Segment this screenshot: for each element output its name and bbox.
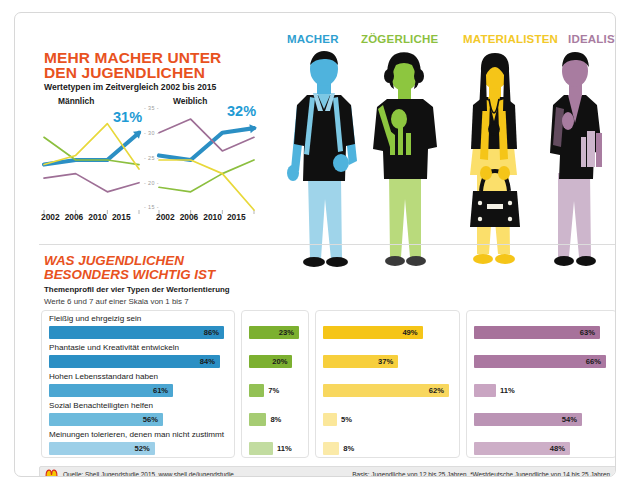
section1-title-line1: MEHR MACHER UNTER (44, 50, 279, 65)
section2-note: Werte 6 und 7 auf einer Skala von 1 bis … (44, 297, 189, 306)
bar-row: 7% (242, 371, 308, 400)
bar-row: 63% (467, 313, 616, 342)
footer-bar: Quelle: Shell Jugendstudie 2015, www.she… (39, 466, 616, 477)
section-divider (39, 244, 616, 245)
bar-row: 62% (316, 371, 459, 400)
bar-row: 5% (316, 400, 459, 429)
criterion-label: Phantasie und Kreativität entwickeln (49, 343, 179, 352)
xtick-2010: 2010 (203, 212, 222, 222)
bar-group-idealisten: 63%66%11%54%48% (466, 310, 616, 458)
arrow-head (249, 124, 257, 133)
bar-value: 11% (277, 443, 292, 454)
section2-title-line1: WAS JUGENDLICHEN (44, 254, 294, 268)
bar-row: 54% (467, 400, 616, 429)
female-chart-xaxis: 2002200620102015 (156, 212, 246, 222)
bar: 86% (49, 326, 224, 339)
line-zögerliche (159, 160, 254, 192)
section2-title-line2: BESONDERS WICHTIG IST (44, 268, 294, 282)
bar-row: 23% (242, 313, 308, 342)
line-charts (39, 106, 279, 226)
bar-row: 11% (242, 429, 308, 458)
female-chart-label: Weiblich (173, 96, 207, 106)
bar-row: 66% (467, 342, 616, 371)
bar: 8% (323, 442, 339, 455)
bar: 7% (249, 384, 264, 397)
bar-row: Hohen Lebensstandard haben61% (42, 371, 234, 400)
bar-value: 63% (580, 327, 595, 338)
male-chart-label: Männlich (58, 96, 94, 106)
bar-value: 5% (341, 414, 352, 425)
section1-title-line2: DEN JUGENDLICHEN (44, 65, 279, 80)
criterion-label: Fleißig und ehrgeizig sein (49, 314, 141, 323)
bar-value: 20% (272, 356, 287, 367)
xtick-2002: 2002 (41, 212, 60, 222)
bar-value: 61% (153, 385, 168, 396)
bar: 54% (474, 413, 582, 426)
bar-value: 48% (550, 443, 565, 454)
ytick-15: - 15 - (144, 204, 159, 210)
criterion-label: Hohen Lebensstandard haben (49, 372, 158, 381)
infographic-card: MACHER ZÖGERLICHE MATERIALISTEN IDEALIST… (14, 12, 616, 477)
bar: 37% (323, 355, 398, 368)
bar: 52% (49, 442, 155, 455)
ytick-20: - 20 - (144, 180, 159, 186)
bar-value: 52% (135, 443, 150, 454)
bar-row: Sozial Benachteiligten helfen56% (42, 400, 234, 429)
bar: 48% (474, 442, 570, 455)
bar-row: 37% (316, 342, 459, 371)
bar: 20% (249, 355, 292, 368)
bar: 11% (474, 384, 496, 397)
bar-row: 20% (242, 342, 308, 371)
bar-value: 49% (402, 327, 417, 338)
bar-row: Phantasie und Kreativität entwickeln84% (42, 342, 234, 371)
bar: 62% (323, 384, 449, 397)
bar-row: 48% (467, 429, 616, 458)
section2-subtitle: Themenprofil der vier Typen der Wertorie… (44, 285, 230, 294)
bar-row: 11% (467, 371, 616, 400)
bar-row: 8% (316, 429, 459, 458)
ytick-25: - 25 - (144, 155, 159, 161)
type-label-materialisten: MATERIALISTEN (463, 33, 558, 45)
bar: 49% (323, 326, 423, 339)
figure-macher (287, 51, 357, 267)
section1-subtitle: Wertetypen im Zeitvergleich 2002 bis 201… (44, 82, 284, 92)
line-materialisten (159, 160, 254, 210)
bar-value: 23% (279, 327, 294, 338)
female-callout-value: 32% (227, 103, 256, 119)
bar: 56% (49, 413, 163, 426)
bar: 84% (49, 355, 220, 368)
male-chart-xaxis: 2002200620102015 (41, 212, 131, 222)
type-label-macher: MACHER (287, 33, 339, 45)
footer-source: Quelle: Shell Jugendstudie 2015, www.she… (63, 471, 234, 477)
bar: 61% (49, 384, 173, 397)
bar-value: 62% (429, 385, 444, 396)
bar-value: 11% (500, 385, 515, 396)
bar-row: Fleißig und ehrgeizig sein86% (42, 313, 234, 342)
bar-value: 56% (143, 414, 158, 425)
xtick-2006: 2006 (65, 212, 84, 222)
bar-value: 7% (268, 385, 279, 396)
bar-value: 8% (270, 414, 281, 425)
bar-group-materialisten: 49%37%62%5%8% (315, 310, 460, 458)
ytick-30: - 30 - (144, 130, 159, 136)
shell-logo-icon (45, 469, 58, 477)
bar-value: 66% (586, 356, 601, 367)
figure-zoegerliche (373, 54, 437, 266)
bar: 8% (249, 413, 266, 426)
bar: 11% (249, 442, 273, 455)
bar-value: 37% (378, 356, 393, 367)
bar-value: 86% (204, 327, 219, 338)
bar: 5% (323, 413, 337, 426)
xtick-2015: 2015 (227, 212, 246, 222)
xtick-2006: 2006 (180, 212, 199, 222)
xtick-2002: 2002 (156, 212, 175, 222)
ytick-35: - 35 - (144, 105, 159, 111)
footer-basis: Basis: Jugendliche von 12 bis 25 Jahren,… (352, 471, 610, 477)
bar-group-macher: Fleißig und ehrgeizig sein86%Phantasie u… (41, 310, 235, 458)
xtick-2010: 2010 (88, 212, 107, 222)
male-callout-value: 31% (113, 109, 142, 125)
bar-value: 8% (343, 443, 354, 454)
bar: 23% (249, 326, 299, 339)
infographic-page: MACHER ZÖGERLICHE MATERIALISTEN IDEALIST… (0, 0, 630, 491)
line-idealisten (44, 174, 139, 192)
